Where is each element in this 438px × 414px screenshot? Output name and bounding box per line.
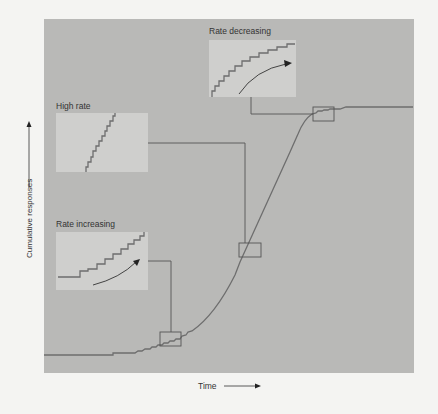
connector-rate-decreasing <box>251 97 334 121</box>
x-axis-label: Time <box>198 381 217 391</box>
connector-high-rate <box>148 143 261 257</box>
arrow-up-icon <box>27 121 32 127</box>
label-high-rate: High rate <box>56 101 91 111</box>
cumulative-record-diagram <box>0 0 438 414</box>
inset-rate-decreasing <box>209 40 296 97</box>
inset-high-rate <box>56 113 148 172</box>
arrow-right-icon <box>255 384 261 389</box>
connector-rate-increasing <box>148 261 181 346</box>
y-axis-label: Cumulative responses <box>25 179 34 258</box>
inset-rate-increasing <box>56 232 148 290</box>
label-rate-decreasing: Rate decreasing <box>209 26 271 36</box>
label-rate-increasing: Rate increasing <box>56 219 115 229</box>
magnifier-box <box>239 243 261 257</box>
x-axis-arrow <box>224 384 261 389</box>
